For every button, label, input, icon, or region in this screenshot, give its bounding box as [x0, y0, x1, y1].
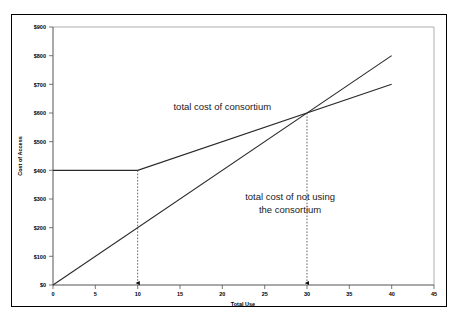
- x-tick-label-30: 30: [304, 291, 310, 297]
- x-tick-label-5: 5: [94, 291, 97, 297]
- x-axis-tick-labels: 0 5 10 15 20 25 30 35 40 45: [51, 291, 437, 297]
- x-tick-label-45: 45: [431, 291, 437, 297]
- y-axis-tick-labels: $0 $100 $200 $300 $400 $500 $600 $700 $8…: [34, 24, 46, 288]
- x-tick-label-40: 40: [389, 291, 395, 297]
- annotation-not-using-label-line2: the consortium: [259, 204, 321, 215]
- series-annotations: total cost of consortium total cost of n…: [173, 101, 334, 215]
- y-tick-label-900: $900: [34, 24, 46, 30]
- y-tick-label-600: $600: [34, 110, 46, 116]
- x-tick-label-0: 0: [51, 291, 54, 297]
- y-tick-label-800: $800: [34, 53, 46, 59]
- x-axis-ticks: [53, 285, 434, 289]
- annotation-consortium-label: total cost of consortium: [173, 101, 271, 112]
- y-axis-ticks: [49, 27, 53, 285]
- x-tick-label-25: 25: [262, 291, 268, 297]
- y-tick-label-200: $200: [34, 225, 46, 231]
- x-tick-label-20: 20: [219, 291, 225, 297]
- y-tick-label-400: $400: [34, 168, 46, 174]
- x-tick-label-35: 35: [346, 291, 352, 297]
- y-axis: $0 $100 $200 $300 $400 $500 $600 $700 $8…: [17, 24, 53, 288]
- y-tick-label-0: $0: [40, 282, 46, 288]
- x-axis-title: Total Use: [231, 301, 255, 307]
- annotation-not-using-label-line1: total cost of not using: [245, 191, 335, 202]
- x-axis: 0 5 10 15 20 25 30 35 40 45 Total Use: [51, 285, 437, 307]
- y-axis-title: Cost of Access: [17, 136, 23, 176]
- chart-figure: $0 $100 $200 $300 $400 $500 $600 $700 $8…: [0, 0, 459, 320]
- data-series-group: [53, 56, 392, 285]
- x-tick-label-10: 10: [135, 291, 141, 297]
- y-tick-label-100: $100: [34, 254, 46, 260]
- x-tick-label-15: 15: [177, 291, 183, 297]
- y-tick-label-700: $700: [34, 82, 46, 88]
- series-line-total-cost-of-consortium: [53, 84, 392, 170]
- y-tick-label-500: $500: [34, 139, 46, 145]
- chart-plot-svg: $0 $100 $200 $300 $400 $500 $600 $700 $8…: [0, 0, 459, 320]
- y-tick-label-300: $300: [34, 196, 46, 202]
